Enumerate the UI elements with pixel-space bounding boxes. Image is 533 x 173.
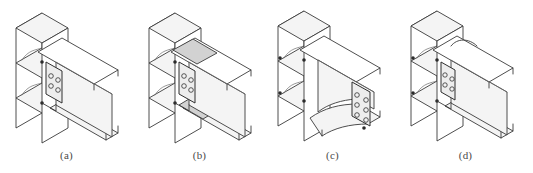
panel-b: (b) (133, 0, 266, 173)
panel-d-caption: (d) (399, 148, 532, 162)
panel-c: (c) (266, 0, 399, 173)
panel-b-drawing (133, 0, 266, 150)
bolt (189, 78, 194, 83)
figure-steel-connection-details: (a) (0, 0, 533, 173)
bolt (364, 108, 369, 113)
bolt (355, 103, 360, 108)
bolt (189, 88, 194, 93)
bolt (355, 93, 360, 98)
panel-a-drawing (0, 0, 133, 150)
bolt (182, 84, 187, 89)
panel-d-drawing (399, 0, 532, 150)
panel-a-caption: (a) (0, 148, 133, 162)
bolt (49, 84, 54, 89)
bolt (443, 73, 447, 77)
bolt (355, 113, 360, 118)
panel-b-caption: (b) (133, 148, 266, 162)
bolt (56, 88, 61, 93)
panel-c-drawing (266, 0, 399, 150)
bolt (450, 77, 454, 81)
bolt (443, 83, 447, 87)
bolt (182, 74, 187, 79)
panel-d: (d) (399, 0, 532, 173)
bolt (364, 98, 369, 103)
panel-c-caption: (c) (266, 148, 399, 162)
bolt (56, 78, 61, 83)
bolt (49, 74, 54, 79)
bolt (450, 87, 454, 91)
panel-a: (a) (0, 0, 133, 173)
bolt (364, 118, 369, 123)
